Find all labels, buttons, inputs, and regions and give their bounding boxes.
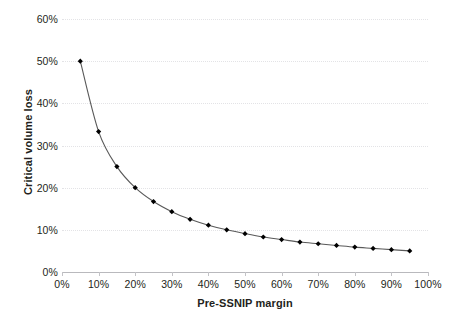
y-tick-label: 0% [2,266,58,278]
data-point-marker [206,223,211,228]
series-line-and-markers [62,19,428,272]
x-tick-mark [99,272,100,276]
chart-container: 0%10%20%30%40%50%60% 0%10%20%30%40%50%60… [0,0,450,321]
x-tick-mark [135,272,136,276]
x-axis-title: Pre-SSNIP margin [62,297,428,309]
data-point-marker [316,241,321,246]
x-tick-mark [282,272,283,276]
data-point-marker [279,237,284,242]
data-point-marker [242,231,247,236]
x-tick-mark [318,272,319,276]
data-point-marker [224,227,229,232]
data-point-marker [297,239,302,244]
x-tick-mark [355,272,356,276]
data-point-marker [78,59,83,64]
y-tick-label: 60% [2,13,58,25]
series-line-path [80,61,409,251]
plot-area [62,19,428,272]
data-point-marker [334,243,339,248]
data-point-marker [169,209,174,214]
data-point-marker [261,234,266,239]
x-tick-mark [62,272,63,276]
data-point-marker [389,247,394,252]
data-point-marker [407,248,412,253]
data-point-marker [188,217,193,222]
x-tick-mark [391,272,392,276]
data-point-marker [352,245,357,250]
x-tick-label: 100% [398,278,450,290]
data-point-marker [96,129,101,134]
x-tick-mark [428,272,429,276]
series-marker-group [78,59,413,254]
x-tick-mark [208,272,209,276]
data-point-marker [371,246,376,251]
x-tick-mark [245,272,246,276]
y-axis-title: Critical volume loss [22,42,34,242]
x-tick-mark [172,272,173,276]
